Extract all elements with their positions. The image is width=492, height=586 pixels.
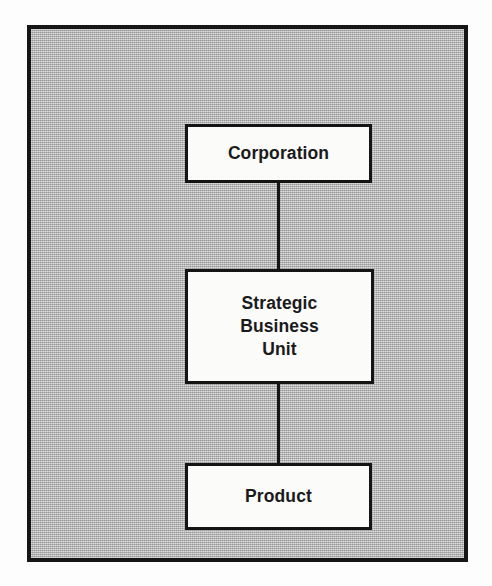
connector-corporation-to-sbu <box>277 180 280 271</box>
node-product-label: Product <box>245 485 312 508</box>
diagram-plate: Corporation Strategic Business Unit Prod… <box>27 25 468 562</box>
node-corporation: Corporation <box>185 124 372 183</box>
connector-sbu-to-product <box>277 381 280 465</box>
node-corporation-label: Corporation <box>228 142 329 165</box>
node-strategic-business-unit: Strategic Business Unit <box>185 269 374 384</box>
node-strategic-business-unit-label: Strategic Business Unit <box>240 292 319 360</box>
figure-root: Corporation Strategic Business Unit Prod… <box>0 0 492 586</box>
node-product: Product <box>185 463 372 530</box>
